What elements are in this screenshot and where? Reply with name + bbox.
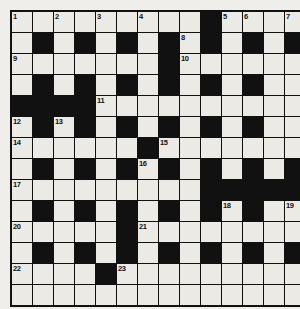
grid-cell-open[interactable] [159, 264, 179, 284]
grid-cell-open[interactable] [54, 180, 74, 200]
grid-cell-open[interactable] [138, 54, 158, 74]
grid-cell-open[interactable] [117, 180, 137, 200]
grid-cell-open[interactable] [222, 222, 242, 242]
grid-cell-open[interactable] [180, 159, 200, 179]
grid-cell-open[interactable] [222, 159, 242, 179]
grid-cell-open[interactable] [180, 96, 200, 116]
grid-cell-open[interactable] [159, 96, 179, 116]
grid-cell-open[interactable] [285, 96, 300, 116]
grid-cell-open[interactable] [75, 12, 95, 32]
grid-cell-open[interactable] [96, 222, 116, 242]
grid-cell-open[interactable] [138, 264, 158, 284]
grid-cell-open[interactable] [222, 138, 242, 158]
grid-cell-open[interactable] [180, 180, 200, 200]
grid-cell-open[interactable] [96, 180, 116, 200]
grid-cell-open[interactable] [138, 201, 158, 221]
grid-cell-open[interactable] [117, 138, 137, 158]
grid-cell-open[interactable] [264, 285, 284, 305]
grid-cell-open[interactable] [33, 222, 53, 242]
grid-cell-open[interactable] [33, 12, 53, 32]
grid-cell-open[interactable]: 2 [54, 12, 74, 32]
grid-cell-open[interactable] [264, 33, 284, 53]
grid-cell-open[interactable] [243, 285, 263, 305]
grid-cell-open[interactable] [159, 12, 179, 32]
grid-cell-open[interactable] [54, 243, 74, 263]
grid-cell-open[interactable] [96, 285, 116, 305]
grid-cell-open[interactable] [75, 54, 95, 74]
grid-cell-open[interactable] [243, 54, 263, 74]
grid-cell-open[interactable] [264, 54, 284, 74]
grid-cell-open[interactable] [12, 201, 32, 221]
grid-cell-open[interactable] [96, 75, 116, 95]
grid-cell-open[interactable] [54, 222, 74, 242]
grid-cell-open[interactable] [201, 222, 221, 242]
grid-cell-open[interactable] [285, 264, 300, 284]
grid-cell-open[interactable] [264, 96, 284, 116]
grid-cell-open[interactable] [201, 138, 221, 158]
grid-cell-open[interactable] [159, 285, 179, 305]
grid-cell-open[interactable] [117, 12, 137, 32]
grid-cell-open[interactable] [117, 54, 137, 74]
grid-cell-open[interactable] [138, 180, 158, 200]
grid-cell-open[interactable]: 6 [243, 12, 263, 32]
grid-cell-open[interactable] [264, 201, 284, 221]
grid-cell-open[interactable] [243, 138, 263, 158]
grid-cell-open[interactable] [138, 117, 158, 137]
grid-cell-open[interactable] [264, 117, 284, 137]
grid-cell-open[interactable] [12, 159, 32, 179]
grid-cell-open[interactable]: 4 [138, 12, 158, 32]
grid-cell-open[interactable] [54, 285, 74, 305]
grid-cell-open[interactable]: 18 [222, 201, 242, 221]
grid-cell-open[interactable] [180, 12, 200, 32]
grid-cell-open[interactable]: 5 [222, 12, 242, 32]
grid-cell-open[interactable] [12, 243, 32, 263]
grid-cell-open[interactable] [264, 159, 284, 179]
grid-cell-open[interactable] [54, 54, 74, 74]
grid-cell-open[interactable] [264, 264, 284, 284]
grid-cell-open[interactable] [33, 264, 53, 284]
grid-cell-open[interactable]: 3 [96, 12, 116, 32]
grid-cell-open[interactable]: 22 [12, 264, 32, 284]
grid-cell-open[interactable] [12, 285, 32, 305]
grid-cell-open[interactable] [54, 201, 74, 221]
grid-cell-open[interactable] [222, 117, 242, 137]
grid-cell-open[interactable] [285, 75, 300, 95]
grid-cell-open[interactable] [33, 285, 53, 305]
grid-cell-open[interactable] [222, 285, 242, 305]
grid-cell-open[interactable] [33, 138, 53, 158]
grid-cell-open[interactable] [33, 54, 53, 74]
grid-cell-open[interactable] [243, 264, 263, 284]
grid-cell-open[interactable] [264, 138, 284, 158]
grid-cell-open[interactable] [201, 285, 221, 305]
grid-cell-open[interactable] [96, 243, 116, 263]
grid-cell-open[interactable] [75, 222, 95, 242]
grid-cell-open[interactable] [54, 138, 74, 158]
grid-cell-open[interactable] [96, 138, 116, 158]
grid-cell-open[interactable] [54, 159, 74, 179]
grid-cell-open[interactable] [96, 117, 116, 137]
grid-cell-open[interactable] [180, 117, 200, 137]
grid-cell-open[interactable]: 14 [12, 138, 32, 158]
grid-cell-open[interactable]: 12 [12, 117, 32, 137]
grid-cell-open[interactable] [96, 201, 116, 221]
grid-cell-open[interactable] [54, 33, 74, 53]
grid-cell-open[interactable] [264, 222, 284, 242]
grid-cell-open[interactable] [243, 222, 263, 242]
grid-cell-open[interactable]: 15 [159, 138, 179, 158]
grid-cell-open[interactable] [138, 243, 158, 263]
grid-cell-open[interactable]: 11 [96, 96, 116, 116]
grid-cell-open[interactable] [180, 222, 200, 242]
grid-cell-open[interactable] [264, 75, 284, 95]
grid-cell-open[interactable] [117, 96, 137, 116]
grid-cell-open[interactable] [285, 54, 300, 74]
grid-cell-open[interactable] [96, 54, 116, 74]
grid-cell-open[interactable] [243, 96, 263, 116]
grid-cell-open[interactable] [222, 264, 242, 284]
grid-cell-open[interactable] [285, 222, 300, 242]
grid-cell-open[interactable] [285, 138, 300, 158]
grid-cell-open[interactable] [180, 243, 200, 263]
crossword-grid[interactable]: 1234567891011121314151617181920212223 [10, 10, 300, 307]
grid-cell-open[interactable] [180, 75, 200, 95]
grid-cell-open[interactable] [117, 285, 137, 305]
grid-cell-open[interactable]: 21 [138, 222, 158, 242]
